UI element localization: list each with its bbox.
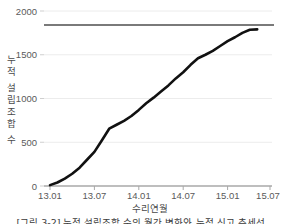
x-tick-label-2: 14.01 <box>127 190 151 201</box>
x-tick-label-3: 14.07 <box>171 190 195 201</box>
y-axis-title-char-0: 누 <box>7 54 16 65</box>
x-tick-label-4: 15.01 <box>216 190 240 201</box>
chart-container: 2000 1500 1000 500 0 13.01 13.07 14.01 1… <box>0 0 281 224</box>
y-tick-label-0: 0 <box>32 181 37 192</box>
y-tick-labels: 2000 1500 1000 500 0 <box>16 6 37 192</box>
x-tick-label-5: 15.07 <box>256 190 280 201</box>
y-tick-label-500: 500 <box>21 137 37 148</box>
y-axis-title-char-8: 수 <box>7 134 16 145</box>
x-axis-title: 수리연월 <box>132 203 168 214</box>
y-axis-title-char-6: 합 <box>7 118 16 129</box>
gridlines <box>44 11 272 142</box>
data-line-cumulative <box>50 29 257 185</box>
x-tick-label-1: 13.07 <box>83 190 107 201</box>
y-axis-title-char-1: 적 <box>7 66 16 77</box>
x-tick-label-0: 13.01 <box>38 190 62 201</box>
y-axis-title-char-5: 조 <box>7 106 16 117</box>
figure-caption: [그림 3-2] 누적 설립조합 수의 월간 변화와 누적 신고 추세선 <box>0 217 281 224</box>
y-tick-label-1500: 1500 <box>16 49 37 60</box>
y-tick-label-1000: 1000 <box>16 93 37 104</box>
line-chart: 2000 1500 1000 500 0 13.01 13.07 14.01 1… <box>0 0 281 224</box>
x-tick-labels: 13.01 13.07 14.01 14.07 15.01 15.07 <box>38 190 280 201</box>
y-axis-title: 누 적 설 립 조 합 수 <box>7 54 16 145</box>
y-axis-title-char-3: 설 <box>7 82 16 93</box>
y-tick-label-2000: 2000 <box>16 6 37 17</box>
y-axis-ticks <box>40 11 44 186</box>
y-axis-title-char-4: 립 <box>7 94 16 105</box>
